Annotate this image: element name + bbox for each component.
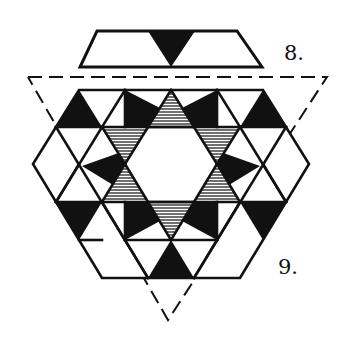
figure-8-label: 8. <box>284 41 304 65</box>
figure-9-hexagon <box>28 77 327 320</box>
figure-8-trapezoid <box>80 31 262 67</box>
figure-9-label: 9. <box>278 255 298 279</box>
